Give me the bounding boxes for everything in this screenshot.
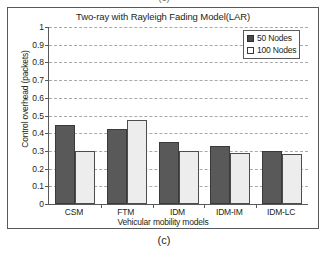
y-tick-label: 0.6	[18, 94, 44, 102]
y-tick-label: 0.2	[18, 165, 44, 173]
bottom-caption: (c)	[0, 234, 328, 246]
bar[interactable]	[262, 151, 282, 204]
y-tick-label: 0.5	[18, 112, 44, 120]
bar-group	[55, 27, 95, 204]
y-tick-label: 0.3	[18, 147, 44, 155]
bar[interactable]	[282, 154, 302, 204]
bar[interactable]	[55, 125, 75, 204]
bar[interactable]	[179, 151, 199, 204]
x-tick-label: IDM	[170, 207, 185, 217]
y-tick-label: 0.7	[18, 76, 44, 84]
y-tick-mark	[45, 98, 49, 99]
y-tick-mark	[45, 204, 49, 205]
legend-item[interactable]: 50 Nodes	[247, 32, 296, 44]
chart-title: Two-ray with Rayleigh Fading Model(LAR)	[8, 11, 318, 22]
bar[interactable]	[210, 146, 230, 204]
bar-group	[107, 27, 147, 204]
x-tick-label: CSM	[65, 207, 83, 217]
legend-swatch-icon	[247, 47, 254, 54]
y-tick-label: 0.1	[18, 182, 44, 190]
x-axis-label: Vehicular mobility models	[8, 217, 318, 227]
x-tick-label: FTM	[117, 207, 134, 217]
y-tick-mark	[45, 133, 49, 134]
legend-swatch-icon	[247, 35, 254, 42]
bar-group	[159, 27, 199, 204]
y-tick-label: 0.8	[18, 58, 44, 66]
y-tick-label: 1	[18, 23, 44, 31]
bar[interactable]	[127, 120, 147, 204]
chart-frame: Two-ray with Rayleigh Fading Model(LAR) …	[7, 7, 319, 229]
legend-item[interactable]: 100 Nodes	[247, 44, 296, 56]
bar[interactable]	[159, 142, 179, 204]
y-tick-mark	[45, 80, 49, 81]
bar[interactable]	[230, 153, 250, 204]
bar[interactable]	[75, 151, 95, 204]
y-tick-mark	[45, 45, 49, 46]
y-axis-tick-labels: 10.90.80.70.60.50.40.30.20.10	[18, 21, 44, 204]
chart-legend: 50 Nodes100 Nodes	[243, 30, 300, 59]
bar[interactable]	[107, 129, 127, 204]
y-tick-mark	[45, 27, 49, 28]
y-tick-mark	[45, 169, 49, 170]
y-tick-label: 0	[18, 200, 44, 208]
top-caption: (c)	[0, 0, 328, 6]
y-tick-mark	[45, 151, 49, 152]
figure-container: (c) Two-ray with Rayleigh Fading Model(L…	[0, 0, 328, 262]
x-tick-label: IDM-IM	[216, 207, 243, 217]
y-tick-mark	[45, 116, 49, 117]
y-tick-mark	[45, 186, 49, 187]
legend-label: 100 Nodes	[257, 45, 296, 55]
x-tick-label: IDM-LC	[267, 207, 295, 217]
legend-label: 50 Nodes	[257, 33, 292, 43]
y-tick-label: 0.9	[18, 41, 44, 49]
y-tick-mark	[45, 62, 49, 63]
y-tick-label: 0.4	[18, 129, 44, 137]
